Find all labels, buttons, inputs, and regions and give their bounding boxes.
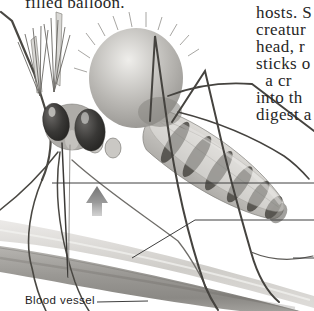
leader-line-middle — [132, 220, 314, 258]
up-arrow-icon — [86, 186, 108, 216]
body-text-line: head, r — [256, 38, 314, 55]
body-text-line: hosts. S — [256, 4, 314, 21]
caption-fragment: filled balloon. — [25, 0, 125, 11]
book-page: filled balloon. hosts. S creatur head, r… — [0, 0, 314, 311]
body-text-line: digest a — [256, 106, 314, 123]
body-text-column: hosts. S creatur head, r sticks o a cr i… — [256, 4, 314, 123]
blood-vessel-label: Blood vessel — [25, 294, 95, 306]
body-text-line: into th — [256, 89, 314, 106]
body-text-line: a cr — [256, 72, 314, 89]
blood-vessel-leader-line — [97, 301, 148, 302]
body-text-line: sticks o — [256, 55, 314, 72]
body-text-line: creatur — [256, 21, 314, 38]
